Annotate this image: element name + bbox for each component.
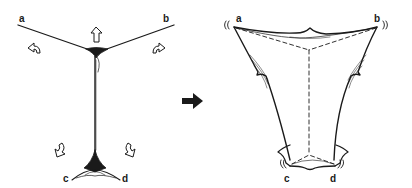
after-label-c: c (284, 174, 290, 184)
vibration-a-icon (225, 21, 227, 29)
after-figure (234, 27, 377, 170)
top-junction (86, 48, 108, 59)
right-arrow-icon (182, 93, 203, 109)
bottom-right-fin (335, 145, 348, 166)
curved-arrow-bottom-left-icon (55, 143, 65, 157)
right-wing (334, 27, 377, 160)
up-arrow-icon (91, 27, 102, 42)
before-label-d: d (122, 174, 128, 184)
vibration-d-icon (341, 160, 344, 168)
top-membrane (234, 27, 377, 34)
vibration-marks (225, 21, 388, 168)
after-label-a: a (236, 14, 242, 24)
diagram-svg (0, 0, 412, 188)
bottom-membrane (290, 166, 335, 170)
before-label-c: c (63, 174, 69, 184)
curved-arrow-left-icon (28, 43, 40, 53)
before-label-a: a (19, 14, 25, 24)
before-figure (18, 25, 174, 180)
left-wing (234, 27, 290, 160)
diagram-canvas: a b c d a b c d (0, 0, 412, 188)
bottom-junction (84, 150, 106, 172)
curved-arrow-bottom-right-icon (125, 143, 135, 157)
after-label-b: b (374, 14, 380, 24)
before-arrows (28, 27, 165, 157)
dashed-edges (236, 28, 376, 164)
before-label-b: b (163, 14, 169, 24)
curved-arrow-right-icon (153, 43, 165, 53)
vibration-c-icon (280, 160, 283, 168)
vibration-b-icon (386, 21, 388, 29)
edge-a (18, 25, 90, 50)
after-label-d: d (330, 174, 336, 184)
